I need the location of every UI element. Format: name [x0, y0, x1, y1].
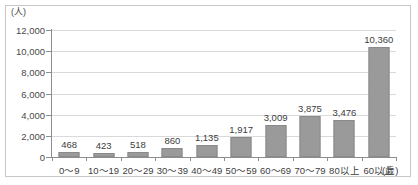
bar[interactable]: [334, 120, 355, 157]
x-axis-tick-mark: [121, 157, 122, 161]
bar[interactable]: [93, 153, 114, 157]
bar-slot: 468: [52, 30, 86, 157]
bar-value-label: 518: [130, 139, 146, 150]
x-axis-tick-mark: [52, 157, 53, 161]
bar[interactable]: [299, 116, 320, 157]
bar-value-label: 10,360: [364, 34, 393, 45]
bar-slot: 10,360: [362, 30, 396, 157]
bar-value-label: 468: [61, 139, 77, 150]
bar[interactable]: [265, 125, 286, 157]
y-axis-tick-label: 2,000: [1, 130, 45, 141]
y-axis-tick-mark: [46, 115, 51, 116]
bar[interactable]: [196, 145, 217, 157]
x-axis-category-label: 50～59: [226, 163, 257, 177]
bar[interactable]: [162, 148, 183, 157]
bar-value-label: 423: [96, 140, 112, 151]
x-axis-category-label: 0～9: [59, 163, 80, 177]
x-axis-category-label: 80以上: [329, 163, 360, 177]
x-axis-tick-mark: [86, 157, 87, 161]
x-axis-tick-mark: [396, 157, 397, 161]
bar-slot: 3,875: [293, 30, 327, 157]
x-axis-tick-mark: [258, 157, 259, 161]
x-axis-tick-mark: [190, 157, 191, 161]
bar-slot: 1,917: [224, 30, 258, 157]
bar-value-label: 1,135: [195, 132, 219, 143]
bar-value-label: 3,476: [332, 107, 356, 118]
y-axis-tick-label: 6,000: [1, 88, 45, 99]
y-axis-tick-label: 4,000: [1, 109, 45, 120]
bar-slot: 1,135: [190, 30, 224, 157]
x-axis-category-label: 20～29: [122, 163, 153, 177]
x-axis-tick-mark: [327, 157, 328, 161]
y-axis-tick-mark: [46, 51, 51, 52]
bar-slot: 518: [121, 30, 155, 157]
x-axis-category-label: 60以上: [364, 163, 395, 177]
y-axis-tick-label: 8,000: [1, 67, 45, 78]
x-axis-tick-mark: [293, 157, 294, 161]
y-axis-tick-label: 12,000: [1, 25, 45, 36]
bar-slot: 423: [86, 30, 120, 157]
y-axis-tick-mark: [46, 94, 51, 95]
y-axis-tick-mark: [46, 136, 51, 137]
x-axis-tick-mark: [362, 157, 363, 161]
x-axis-category-label: 30～39: [157, 163, 188, 177]
bar[interactable]: [368, 47, 389, 157]
y-axis-tick-mark: [46, 72, 51, 73]
bar[interactable]: [231, 137, 252, 157]
bar-slot: 860: [155, 30, 189, 157]
x-axis-tick-mark: [224, 157, 225, 161]
bar-value-label: 3,009: [264, 112, 288, 123]
x-axis-category-label: 40～49: [191, 163, 222, 177]
bar-slot: 3,009: [258, 30, 292, 157]
bar-value-label: 3,875: [298, 103, 322, 114]
x-axis-category-label: 60～69: [260, 163, 291, 177]
x-axis-category-label: 10～19: [88, 163, 119, 177]
x-axis-category-label: 70～79: [294, 163, 325, 177]
y-axis-tick-mark: [46, 30, 51, 31]
bar-value-label: 860: [164, 135, 180, 146]
bar-slot: 3,476: [327, 30, 361, 157]
y-axis-tick-label: 0: [1, 152, 45, 163]
bar[interactable]: [127, 152, 148, 157]
y-axis-tick-label: 10,000: [1, 46, 45, 57]
y-axis-tick-mark: [46, 157, 51, 158]
y-axis-tick-labels: 02,0004,0006,0008,00010,00012,000: [0, 0, 45, 185]
x-axis-tick-mark: [155, 157, 156, 161]
bar[interactable]: [59, 152, 80, 157]
bar-value-label: 1,917: [229, 124, 253, 135]
plot-area: 4684235188601,1351,9173,0093,8753,47610,…: [52, 30, 396, 157]
